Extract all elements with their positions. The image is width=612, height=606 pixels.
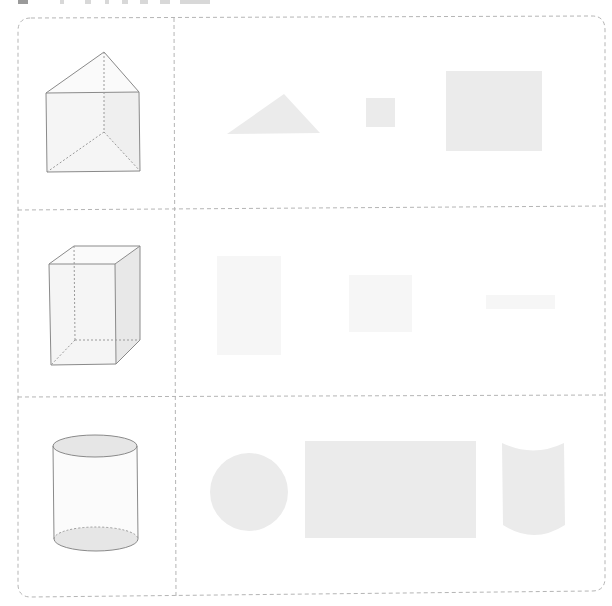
tall-rectangle-shape (217, 256, 281, 355)
thin-bar-shape (486, 295, 555, 309)
rectangle-face-shape (446, 71, 542, 151)
worksheet-drawing (0, 0, 612, 606)
small-square-face-shape (366, 98, 395, 127)
square-shape (349, 275, 412, 332)
rectangular-prism-icon (49, 246, 140, 365)
row-divider-1 (18, 206, 605, 210)
triangular-prism-icon (46, 52, 140, 172)
circle-base-shape (210, 453, 288, 531)
lateral-rectangle-shape (305, 441, 476, 538)
row-divider-2 (18, 395, 605, 397)
worksheet-grid (0, 0, 612, 606)
column-divider (174, 18, 176, 597)
triangle-face-shape (227, 94, 320, 134)
cylinder-icon (53, 435, 138, 551)
curved-surface-shape (502, 443, 565, 535)
